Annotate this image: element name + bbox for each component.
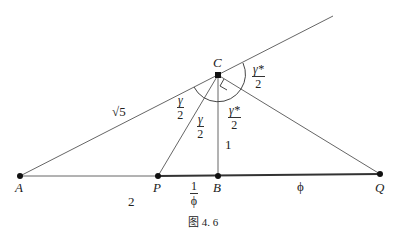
label-b: B bbox=[213, 181, 221, 194]
figure-caption: 图 4. 6 bbox=[188, 213, 218, 229]
label-pb-length: 1 ϕ bbox=[190, 180, 198, 207]
angle-arc-gamma-star bbox=[241, 63, 245, 89]
point-b bbox=[215, 173, 221, 179]
angle-label-gamma-star-half-inner: γ* 2 bbox=[228, 104, 241, 131]
label-sqrt5: √5 bbox=[112, 105, 126, 118]
angle-den: 2 bbox=[231, 118, 237, 131]
point-c bbox=[215, 72, 221, 78]
angle-label-gamma-half-left: γ 2 bbox=[177, 94, 184, 121]
angle-den: 2 bbox=[255, 77, 261, 90]
segment-cq bbox=[218, 75, 380, 174]
angle-label-gamma-star-half-outer: γ* 2 bbox=[252, 63, 265, 90]
label-a: A bbox=[15, 181, 23, 194]
label-cb-length: 1 bbox=[225, 138, 232, 151]
label-ap-length: 2 bbox=[128, 195, 135, 208]
label-bq-length: ϕ bbox=[297, 180, 304, 193]
angle-den: 2 bbox=[177, 108, 183, 121]
angle-num: γ bbox=[177, 94, 184, 108]
angle-num: γ* bbox=[228, 104, 241, 118]
label-c: C bbox=[213, 56, 222, 69]
angle-num: γ* bbox=[252, 63, 265, 77]
label-q: Q bbox=[375, 181, 384, 194]
angle-label-gamma-half-mid: γ 2 bbox=[197, 113, 204, 140]
angle-num: γ bbox=[197, 113, 204, 127]
point-p bbox=[155, 173, 161, 179]
pb-denominator: ϕ bbox=[191, 194, 197, 207]
right-angle-mark bbox=[220, 79, 227, 90]
label-p: P bbox=[153, 181, 161, 194]
pb-numerator: 1 bbox=[190, 180, 198, 194]
point-q bbox=[377, 171, 383, 177]
point-a bbox=[17, 173, 23, 179]
segment-pq bbox=[158, 174, 380, 176]
angle-den: 2 bbox=[197, 127, 203, 140]
